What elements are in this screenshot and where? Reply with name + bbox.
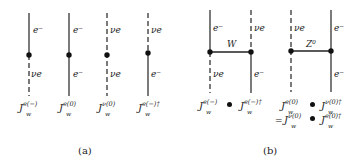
label-d4-top: νe <box>151 26 162 35</box>
sub-w: w <box>247 109 252 115</box>
caption-b: (b) <box>263 145 277 156</box>
sub-w: w <box>26 111 31 117</box>
sub-w: w <box>328 123 333 129</box>
label-z-tl: νe <box>294 24 305 33</box>
label-z-tr: e⁻ <box>334 24 344 33</box>
sub-w: w <box>105 111 110 117</box>
caption-a: (a) <box>78 145 92 156</box>
sub-w: w <box>291 123 296 129</box>
product-dot <box>310 116 315 121</box>
label-d3-top: νe <box>110 26 121 35</box>
label-d1-bottom: νe <box>31 70 42 79</box>
sub-w: w <box>206 109 211 115</box>
label-w-tr: νe <box>254 24 265 33</box>
label-w-boson: W <box>227 40 236 49</box>
label-z-br: e⁻ <box>334 70 344 79</box>
equals-sign: = <box>275 117 283 126</box>
label-w-tl: e⁻ <box>213 24 223 33</box>
label-d3-bottom: νe <box>110 70 121 79</box>
feynman-lines <box>0 0 359 162</box>
product-dot <box>227 102 232 107</box>
sub-w: w <box>145 111 150 117</box>
sub-w: w <box>66 111 71 117</box>
product-dot <box>310 102 315 107</box>
label-w-br: e⁻ <box>254 70 264 79</box>
label-d2-bottom: e⁻ <box>73 70 83 79</box>
label-z-boson: Z⁰ <box>306 40 316 49</box>
label-d4-bottom: e⁻ <box>151 70 161 79</box>
label-d2-top: e⁻ <box>73 26 83 35</box>
label-w-bl: νe <box>213 70 224 79</box>
label-d1-top: e⁻ <box>33 26 43 35</box>
